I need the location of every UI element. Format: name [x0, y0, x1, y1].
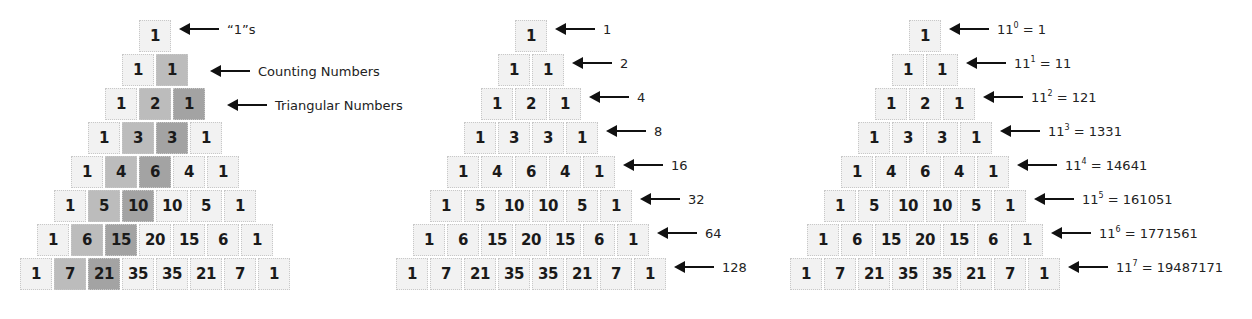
- power-base: 11: [1082, 192, 1099, 207]
- cell-r6-k6: 1: [1011, 224, 1043, 256]
- arrow-left-icon: [1070, 266, 1108, 268]
- annotation-powers-of-eleven-row-6: 116 = 1771561: [1053, 225, 1198, 241]
- arrow-left-icon: [1002, 130, 1040, 132]
- cell-r3-k1: 3: [892, 122, 924, 154]
- cell-r5-k4: 5: [960, 190, 992, 222]
- cell-r5-k0: 1: [824, 190, 856, 222]
- cell-r7-k7: 1: [1028, 258, 1060, 290]
- power-base: 11: [1014, 56, 1031, 71]
- triangle-powers-of-eleven: 1111211331146411510105116152015611721353…: [0, 0, 1252, 319]
- cell-r5-k1: 5: [858, 190, 890, 222]
- power-value: 1771561: [1140, 226, 1198, 241]
- cell-r6-k5: 6: [977, 224, 1009, 256]
- annotation-label: 110 = 1: [997, 21, 1046, 37]
- cell-r2-k0: 1: [875, 88, 907, 120]
- equals-sign: =: [1036, 56, 1055, 71]
- annotation-powers-of-eleven-row-3: 113 = 1331: [1002, 123, 1122, 139]
- power-base: 11: [1048, 124, 1065, 139]
- equals-sign: =: [1104, 192, 1123, 207]
- annotation-powers-of-eleven-row-5: 115 = 161051: [1036, 191, 1172, 207]
- power-base: 11: [1031, 90, 1048, 105]
- cell-r7-k2: 21: [858, 258, 890, 290]
- annotation-powers-of-eleven-row-2: 112 = 121: [985, 89, 1097, 105]
- annotation-powers-of-eleven-row-4: 114 = 14641: [1019, 157, 1147, 173]
- cell-r2-k1: 2: [909, 88, 941, 120]
- cell-r5-k3: 10: [926, 190, 958, 222]
- cell-r3-k2: 3: [926, 122, 958, 154]
- cell-r1-k0: 1: [892, 54, 924, 86]
- arrow-left-icon: [1036, 198, 1074, 200]
- annotation-label: 117 = 19487171: [1116, 259, 1223, 275]
- cell-r3-k0: 1: [858, 122, 890, 154]
- cell-r0-k0: 1: [909, 20, 941, 52]
- cell-r6-k3: 20: [909, 224, 941, 256]
- annotation-powers-of-eleven-row-7: 117 = 19487171: [1070, 259, 1223, 275]
- arrow-left-icon: [951, 28, 989, 30]
- power-value: 161051: [1123, 192, 1173, 207]
- power-value: 121: [1072, 90, 1097, 105]
- power-base: 11: [1099, 226, 1116, 241]
- cell-r6-k2: 15: [875, 224, 907, 256]
- annotation-label: 112 = 121: [1031, 89, 1097, 105]
- cell-r1-k1: 1: [926, 54, 958, 86]
- equals-sign: =: [1087, 158, 1106, 173]
- cell-r7-k6: 7: [994, 258, 1026, 290]
- power-value: 19487171: [1157, 260, 1223, 275]
- cell-r7-k4: 35: [926, 258, 958, 290]
- annotation-label: 116 = 1771561: [1099, 225, 1198, 241]
- power-value: 1: [1038, 22, 1046, 37]
- cell-r4-k2: 6: [909, 156, 941, 188]
- arrow-left-icon: [1053, 232, 1091, 234]
- annotation-powers-of-eleven-row-1: 111 = 11: [968, 55, 1071, 71]
- cell-r7-k0: 1: [790, 258, 822, 290]
- equals-sign: =: [1053, 90, 1072, 105]
- power-base: 11: [1065, 158, 1082, 173]
- annotation-powers-of-eleven-row-0: 110 = 1: [951, 21, 1046, 37]
- cell-r7-k3: 35: [892, 258, 924, 290]
- cell-r4-k1: 4: [875, 156, 907, 188]
- cell-r5-k2: 10: [892, 190, 924, 222]
- annotation-label: 111 = 11: [1014, 55, 1071, 71]
- equals-sign: =: [1070, 124, 1089, 139]
- annotation-label: 114 = 14641: [1065, 157, 1147, 173]
- power-value: 14641: [1106, 158, 1147, 173]
- cell-r3-k3: 1: [960, 122, 992, 154]
- power-value: 1331: [1089, 124, 1122, 139]
- cell-r6-k0: 1: [807, 224, 839, 256]
- cell-r6-k4: 15: [943, 224, 975, 256]
- equals-sign: =: [1121, 226, 1140, 241]
- annotation-label: 113 = 1331: [1048, 123, 1122, 139]
- arrow-left-icon: [1019, 164, 1057, 166]
- cell-r2-k2: 1: [943, 88, 975, 120]
- cell-r4-k0: 1: [841, 156, 873, 188]
- equals-sign: =: [1019, 22, 1038, 37]
- power-base: 11: [997, 22, 1014, 37]
- power-base: 11: [1116, 260, 1133, 275]
- cell-r5-k5: 1: [994, 190, 1026, 222]
- arrow-left-icon: [968, 62, 1006, 64]
- arrow-left-icon: [985, 96, 1023, 98]
- cell-r6-k1: 6: [841, 224, 873, 256]
- cell-r7-k5: 21: [960, 258, 992, 290]
- power-value: 11: [1055, 56, 1072, 71]
- cell-r4-k4: 1: [977, 156, 1009, 188]
- cell-r7-k1: 7: [824, 258, 856, 290]
- equals-sign: =: [1138, 260, 1157, 275]
- cell-r4-k3: 4: [943, 156, 975, 188]
- annotation-label: 115 = 161051: [1082, 191, 1172, 207]
